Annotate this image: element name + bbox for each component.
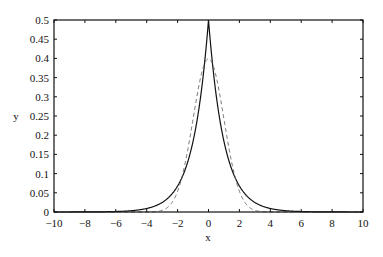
line-chart: −10−8−6−4−20246810 00.050.10.150.20.250.…	[0, 0, 383, 257]
x-tick-label: −4	[141, 217, 153, 229]
y-tick-label: 0.5	[35, 14, 49, 26]
y-tick-label: 0.3	[35, 91, 49, 103]
x-tick-label: 0	[206, 217, 212, 229]
dashed-normal-curve	[54, 59, 363, 212]
y-tick-label: 0.4	[35, 52, 49, 64]
x-tick-label: 4	[268, 217, 274, 229]
y-tick-label: 0.05	[30, 187, 50, 199]
solid-laplace-curve	[54, 20, 363, 212]
x-tick-label: −6	[110, 217, 122, 229]
x-tick-label: −2	[172, 217, 184, 229]
y-tick-label: 0.15	[30, 148, 50, 160]
y-tick-label: 0.35	[30, 72, 50, 84]
y-tick-label: 0.45	[30, 33, 50, 45]
y-tick-label: 0.1	[35, 168, 49, 180]
x-axis-label: x	[205, 231, 211, 243]
x-tick-label: −10	[45, 217, 63, 229]
y-axis-ticks: 00.050.10.150.20.250.30.350.40.450.5	[30, 14, 363, 218]
x-axis-ticks: −10−8−6−4−20246810	[45, 20, 369, 229]
x-tick-label: 2	[237, 217, 243, 229]
y-axis-label: y	[13, 110, 19, 122]
y-tick-label: 0	[44, 206, 50, 218]
plot-curves	[54, 20, 363, 212]
x-tick-label: 6	[298, 217, 304, 229]
plot-frame	[54, 20, 363, 212]
y-tick-label: 0.2	[35, 129, 49, 141]
x-tick-label: −8	[79, 217, 91, 229]
y-tick-label: 0.25	[30, 110, 50, 122]
x-tick-label: 8	[329, 217, 335, 229]
x-tick-label: 10	[358, 217, 370, 229]
